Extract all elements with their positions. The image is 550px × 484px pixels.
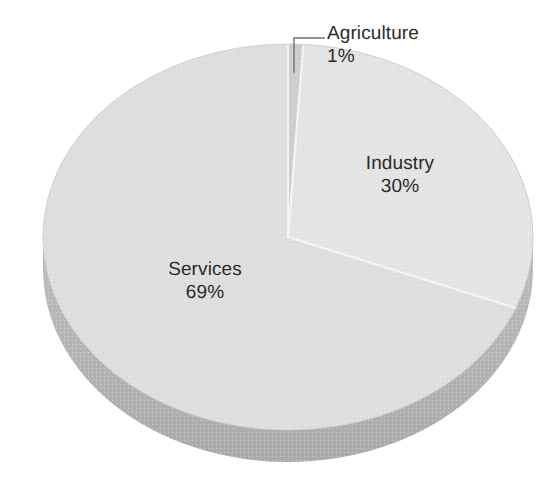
pie-label-industry-name: Industry [366,152,434,175]
pie-label-services-name: Services [168,258,242,281]
pie-label-industry: Industry 30% [366,152,434,198]
pie-label-services: Services 69% [168,258,242,304]
pie-label-agriculture-name: Agriculture [327,22,419,45]
pie-label-industry-value: 30% [366,175,434,198]
pie-label-agriculture: Agriculture 1% [327,22,419,68]
pie-label-services-value: 69% [168,281,242,304]
pie-label-agriculture-value: 1% [327,45,419,68]
pie-chart-graphic [0,0,550,484]
pie-chart: Agriculture 1% Industry 30% Services 69% [0,0,550,484]
